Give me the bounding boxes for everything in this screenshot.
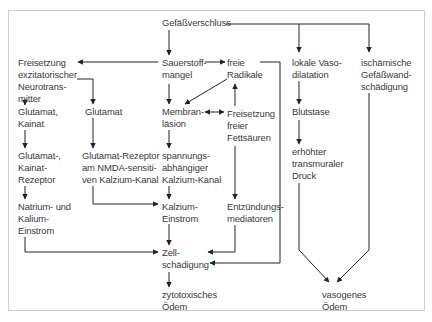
node-text: Kainat- — [18, 162, 61, 174]
node-gefaessverschluss: Gefäßverschluss — [162, 17, 231, 29]
node-text: Sauerstoff- — [162, 57, 207, 69]
node-zellschaedigung: Zell- schädigung — [162, 247, 209, 271]
edge-nmda-kalzium — [93, 186, 158, 204]
node-glutamat-kainat-rezeptor: Glutamat-, Kainat- Rezeptor — [18, 150, 61, 186]
node-glutamat-kainat: Glutamat, Kainat — [18, 106, 58, 130]
node-zytotoxisches-oedem: zytotoxisches Ödem — [162, 289, 217, 313]
node-text: am NMDA-sensiti- — [82, 162, 160, 174]
node-text: schädigung — [162, 259, 209, 271]
node-text: spannungs- — [162, 150, 221, 162]
edge-gefaess-vasodilatation — [226, 24, 299, 52]
edge-gefaess-gefaesswand — [299, 24, 369, 52]
node-text: Membran- — [162, 106, 204, 118]
edge-druck-vasogen — [299, 183, 329, 282]
node-spannungsabh-kanal: spannungs- abhängiger Kalzium-Kanal — [162, 150, 221, 186]
edge-neuro-glutamat — [77, 79, 93, 104]
node-text: läsion — [162, 118, 204, 130]
node-sauerstoffmangel: Sauerstoff- mangel — [162, 57, 207, 81]
node-text: exzitatorischer — [18, 69, 77, 81]
node-text: Ödem — [162, 301, 217, 313]
node-text: freie — [227, 57, 263, 69]
node-text: Einstrom — [18, 225, 71, 237]
node-text: Glutamat-Rezeptor — [82, 150, 160, 162]
edge-radikale-membran — [185, 79, 227, 104]
node-text: Zell- — [162, 247, 209, 259]
node-membranlaesion: Membran- läsion — [162, 106, 204, 130]
edge-gefaesswand-vasogen — [337, 93, 369, 282]
node-text: Glutamat-, — [18, 150, 61, 162]
node-text: mitter — [18, 93, 77, 105]
node-blutstase: Blutstase — [292, 106, 330, 118]
node-freie-radikale: freie Radikale — [227, 57, 263, 81]
node-text: Kalzium- — [162, 201, 198, 213]
node-text: Glutamat — [85, 106, 122, 118]
node-text: lokale Vaso- — [292, 57, 342, 69]
node-text: dilatation — [292, 69, 342, 81]
node-text: Glutamat, — [18, 106, 58, 118]
node-text: Einstrom — [162, 213, 198, 225]
node-entzuendungsmediatoren: Entzündungs- mediatoren — [227, 201, 284, 225]
node-text: freier — [227, 120, 275, 132]
node-text: abhängiger — [162, 162, 221, 174]
node-erhoehter-druck: erhöhter transmuraler Druck — [292, 146, 343, 182]
node-text: Gefäßverschluss — [162, 17, 231, 29]
node-text: Ödem — [322, 301, 366, 313]
node-freisetzung-neurotransmitter: Freisetzung exzitatorischer Neurotrans- … — [18, 57, 77, 105]
node-text: Kainat — [18, 118, 58, 130]
node-vasogenes-oedem: vasogenes Ödem — [322, 289, 366, 313]
node-text: Kalium- — [18, 213, 71, 225]
node-text: vasogenes — [322, 289, 366, 301]
edge-entzuendung-zell — [208, 225, 235, 252]
node-text: Blutstase — [292, 106, 330, 118]
node-text: mangel — [162, 69, 207, 81]
node-glutamat: Glutamat — [85, 106, 122, 118]
node-text: Rezeptor — [18, 174, 61, 186]
edge-natrium-zell — [25, 237, 158, 252]
node-text: mediatoren — [227, 213, 284, 225]
node-text: schädigung — [361, 81, 412, 93]
node-text: Entzündungs- — [227, 201, 284, 213]
node-freisetzung-fettsaeuren: Freisetzung freier Fettsäuren — [227, 108, 275, 144]
node-text: Radikale — [227, 69, 263, 81]
node-natrium-kalium-einstrom: Natrium- und Kalium- Einstrom — [18, 201, 71, 237]
node-text: ischämische — [361, 57, 412, 69]
node-text: Gefäßwand- — [361, 69, 412, 81]
node-text: Freisetzung — [227, 108, 275, 120]
node-text: Neurotrans- — [18, 81, 77, 93]
node-text: transmuraler — [292, 158, 343, 170]
node-text: erhöhter — [292, 146, 343, 158]
node-nmda-rezeptor: Glutamat-Rezeptor am NMDA-sensiti- ven K… — [82, 150, 160, 186]
node-lokale-vasodilatation: lokale Vaso- dilatation — [292, 57, 342, 81]
node-text: Druck — [292, 170, 343, 182]
node-text: zytotoxisches — [162, 289, 217, 301]
node-text: Kalzium-Kanal — [162, 174, 221, 186]
node-ischaemische-gefaesswandschaedigung: ischämische Gefäßwand- schädigung — [361, 57, 412, 93]
node-text: Freisetzung — [18, 57, 77, 69]
node-kalzium-einstrom: Kalzium- Einstrom — [162, 201, 198, 225]
node-text: Fettsäuren — [227, 132, 275, 144]
node-text: Natrium- und — [18, 201, 71, 213]
node-text: ven Kalzium-Kanal — [82, 174, 160, 186]
